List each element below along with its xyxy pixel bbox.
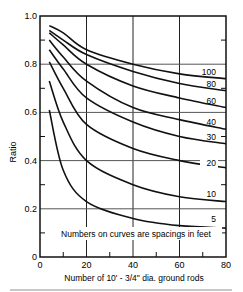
y-tick-label: 0.2 [24, 204, 37, 214]
x-tick-label: 80 [221, 260, 231, 270]
curve-label: 10 [207, 189, 217, 199]
curve-label: 100 [202, 67, 216, 77]
curve-label: 80 [207, 79, 217, 89]
curve-10 [49, 81, 226, 202]
x-tick-label: 60 [174, 260, 184, 270]
grid-lines [40, 16, 226, 257]
y-tick-label: 0 [32, 252, 37, 262]
curve-80 [49, 30, 226, 90]
x-tick-label: 40 [128, 260, 138, 270]
curve-label: 20 [207, 158, 217, 168]
curve-label: 30 [207, 132, 217, 142]
ratio-chart: 1008060403020105 02040608000.20.40.60.81… [0, 0, 243, 292]
curve-label: 5 [211, 214, 216, 224]
curves [49, 26, 226, 228]
curve-20 [49, 62, 226, 168]
separator-line [10, 289, 232, 291]
y-tick-label: 0.4 [24, 156, 37, 166]
y-tick-label: 0.8 [24, 59, 37, 69]
y-tick-label: 0.6 [24, 107, 37, 117]
curve-40 [49, 40, 226, 129]
y-tick-label: 1.0 [24, 11, 37, 21]
x-tick-label: 0 [37, 260, 42, 270]
curve-label: 40 [207, 117, 217, 127]
x-tick-label: 20 [81, 260, 91, 270]
x-axis-label: Number of 10' - 3/4" dia. ground rods [64, 273, 203, 283]
y-axis-label: Ratio [8, 141, 18, 162]
curve-label: 60 [207, 96, 217, 106]
annotation-note: Numbers on curves are spacings in feet [61, 229, 211, 239]
curve-5 [49, 110, 226, 228]
